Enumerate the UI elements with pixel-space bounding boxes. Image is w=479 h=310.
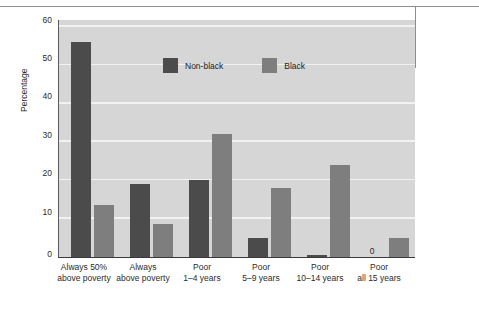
x-category-line2: all 15 years <box>339 273 419 284</box>
bar-chart-figure: Percentage 60 50 40 30 20 10 0 0 <box>0 0 479 310</box>
bar-value-nonblack-poor-all-15-years: 0 <box>362 246 382 256</box>
legend-item-non-black: Non-black <box>163 58 223 73</box>
x-category-label-poor-all-15-years: Poor all 15 years <box>339 262 419 284</box>
gridline-20 <box>59 179 415 181</box>
y-axis-label: Percentage <box>19 69 29 112</box>
gridline-60 <box>59 25 415 27</box>
y-tick-label-60: 60 <box>30 15 52 25</box>
bar-black-poor-5-9-years <box>271 188 291 257</box>
bar-nonblack-always-above-poverty <box>130 184 150 257</box>
bar-black-poor-1-4-years <box>212 134 232 257</box>
y-tick-label-50: 50 <box>30 53 52 63</box>
plot-area: 0 Non-black Black <box>58 20 415 258</box>
y-tick-label-30: 30 <box>30 130 52 140</box>
y-tick-label-40: 40 <box>30 91 52 101</box>
bar-nonblack-always-50-above-poverty <box>71 42 91 257</box>
gridline-30 <box>59 140 415 142</box>
y-tick-label-10: 10 <box>30 207 52 217</box>
y-tick-label-20: 20 <box>30 168 52 178</box>
bar-nonblack-poor-10-14-years <box>307 255 327 257</box>
x-category-line1: Poor <box>339 262 419 273</box>
bar-black-always-above-poverty <box>153 224 173 257</box>
legend-label-non-black: Non-black <box>185 61 223 71</box>
gridline-40 <box>59 102 415 104</box>
legend-item-black: Black <box>262 58 305 73</box>
legend-swatch-black-icon <box>262 58 277 73</box>
bar-nonblack-poor-1-4-years <box>189 180 209 257</box>
bar-black-poor-all-15-years <box>389 238 409 257</box>
y-tick-label-0: 0 <box>30 249 52 259</box>
legend: Non-black Black <box>163 58 305 73</box>
legend-label-black: Black <box>284 61 305 71</box>
bar-black-always-50-above-poverty <box>94 205 114 257</box>
bar-black-poor-10-14-years <box>330 165 350 257</box>
legend-swatch-non-black-icon <box>163 58 178 73</box>
bar-nonblack-poor-5-9-years <box>248 238 268 257</box>
